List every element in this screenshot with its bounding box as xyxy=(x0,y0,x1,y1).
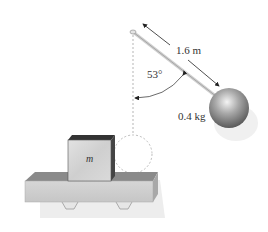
ball-final-position-outline xyxy=(114,135,152,173)
pendulum-diagram xyxy=(0,0,268,232)
block-mass-label: m xyxy=(86,153,93,164)
length-label: 1.6 m xyxy=(176,44,201,56)
ball-mass-label: 0.4 kg xyxy=(178,110,206,122)
pendulum-rod xyxy=(133,32,217,97)
pivot-icon xyxy=(130,30,136,34)
angle-label: 53° xyxy=(147,68,162,80)
pendulum-ball xyxy=(209,88,249,128)
